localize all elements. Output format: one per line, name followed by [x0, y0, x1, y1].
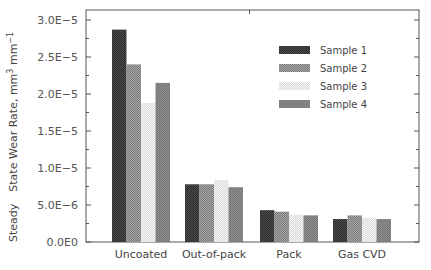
x-category-label: Pack [276, 248, 302, 261]
x-category-label: Uncoated [115, 248, 168, 261]
legend-swatch [279, 82, 310, 90]
bar-sample-2 [348, 215, 363, 242]
bar-sample-2 [200, 184, 215, 242]
bar-sample-3 [289, 215, 304, 242]
y-tick-label: 2.0E−5 [37, 88, 78, 101]
bar-chart: 0.0E05.0E−61.0E−51.5E−52.0E−52.5E−53.0E−… [0, 0, 431, 270]
bar-sample-4 [229, 187, 244, 242]
y-tick-label: 1.0E−5 [37, 162, 78, 175]
bar-sample-3 [141, 103, 156, 242]
y-tick-label: 5.0E−6 [37, 199, 78, 212]
legend-label: Sample 4 [320, 99, 367, 110]
bar-sample-3 [362, 218, 377, 242]
x-category-label: Out-of-pack [182, 248, 247, 261]
legend-label: Sample 1 [320, 45, 367, 56]
legend-label: Sample 3 [320, 81, 367, 92]
y-tick-label: 3.0E−5 [37, 14, 78, 27]
legend: Sample 1Sample 2Sample 3Sample 4 [279, 45, 367, 110]
bar-sample-1 [112, 30, 127, 242]
y-tick-label: 0.0E0 [47, 236, 78, 249]
x-category-label: Gas CVD [338, 248, 386, 261]
bar-sample-4 [304, 215, 319, 242]
bar-sample-1 [333, 219, 348, 242]
y-tick-label: 1.5E−5 [37, 125, 78, 138]
bar-sample-3 [214, 180, 229, 242]
legend-swatch [279, 46, 310, 54]
bar-sample-1 [260, 210, 275, 242]
legend-label: Sample 2 [320, 63, 367, 74]
legend-swatch [279, 100, 310, 108]
y-tick-label: 2.5E−5 [37, 51, 78, 64]
x-axis: UncoatedOut-of-packPackGas CVD [115, 248, 386, 261]
bars [112, 30, 391, 242]
bar-sample-2 [127, 64, 142, 242]
legend-swatch [279, 64, 310, 72]
bar-sample-4 [377, 219, 392, 242]
bar-sample-1 [185, 184, 200, 242]
bar-sample-4 [156, 83, 171, 242]
bar-sample-2 [275, 212, 290, 242]
y-axis-label: SteadyState Wear Rate, mm3 mm−1 [6, 32, 20, 242]
